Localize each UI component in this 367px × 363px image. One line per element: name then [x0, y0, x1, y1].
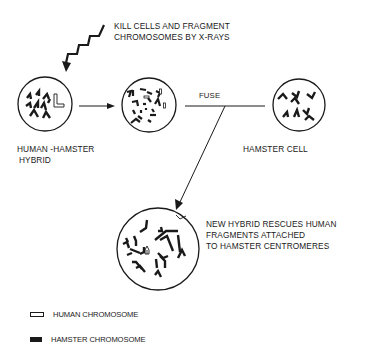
- result-label-line1: NEW HYBRID RESCUES HUMAN: [206, 219, 337, 229]
- arrow-right-icon: [79, 103, 115, 109]
- xray-label-line1: KILL CELLS AND FRAGMENT: [114, 21, 230, 31]
- diagram-canvas: [0, 0, 367, 363]
- hybrid-label-line2: HYBRID: [19, 155, 51, 165]
- cell-new-hybrid: [117, 208, 199, 290]
- hamster-cell-label: HAMSTER CELL: [243, 144, 308, 154]
- legend-item-human: HUMAN CHROMOSOME: [30, 310, 138, 319]
- legend-label: HUMAN CHROMOSOME: [53, 310, 138, 319]
- legend-item-hamster: HAMSTER CHROMOSOME: [30, 335, 145, 344]
- human-chromosome-swatch-icon: [30, 312, 44, 317]
- arrow-diagonal-icon: [175, 106, 225, 210]
- cell-hamster: [273, 79, 325, 131]
- xray-label-line2: CHROMOSOMES BY X-RAYS: [114, 32, 230, 42]
- cell-hybrid: [18, 77, 72, 131]
- xray-zigzag-icon: [62, 25, 104, 72]
- hybrid-label-line1: HUMAN -HAMSTER: [17, 144, 94, 154]
- legend-label: HAMSTER CHROMOSOME: [51, 335, 145, 344]
- result-label-line2: FRAGMENTS ATTACHED: [206, 230, 305, 240]
- hamster-chromosome-swatch-icon: [30, 337, 42, 342]
- fuse-label: FUSE: [199, 91, 220, 101]
- result-label-line3: TO HAMSTER CENTROMERES: [206, 241, 329, 251]
- cell-irradiated: [122, 78, 176, 132]
